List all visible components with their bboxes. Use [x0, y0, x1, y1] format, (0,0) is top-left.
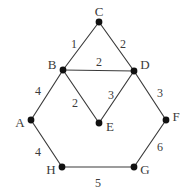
edges-group — [31, 22, 166, 167]
graph-edge — [99, 71, 134, 123]
graph-canvas: ABCDEFGH 1224233465 — [0, 0, 191, 195]
edge-weight-label: 6 — [157, 140, 163, 154]
graph-edge — [31, 120, 62, 167]
node-label: D — [140, 57, 149, 72]
edge-weight-label: 3 — [157, 86, 163, 100]
node-label: H — [46, 162, 55, 177]
node-label: E — [106, 119, 114, 134]
edge-weight-label: 5 — [95, 176, 101, 190]
weighted-graph-diagram: ABCDEFGH 1224233465 — [0, 0, 191, 195]
edge-weight-label: 4 — [35, 145, 41, 159]
edge-weight-label: 1 — [71, 37, 77, 51]
graph-node — [59, 164, 66, 171]
node-label: F — [172, 109, 179, 124]
edge-weight-label: 2 — [72, 96, 78, 110]
graph-node — [131, 68, 138, 75]
graph-node — [28, 117, 35, 124]
edge-weight-label: 2 — [120, 37, 126, 51]
edge-weight-label: 2 — [96, 55, 102, 69]
graph-edge — [99, 22, 134, 71]
graph-node — [163, 117, 170, 124]
node-label: C — [95, 4, 104, 19]
edge-weight-label: 3 — [108, 88, 114, 102]
graph-node — [96, 120, 103, 127]
graph-edge — [63, 70, 99, 123]
graph-node — [60, 67, 67, 74]
node-label: G — [140, 162, 149, 177]
graph-edge — [63, 70, 134, 71]
node-label: A — [15, 115, 25, 130]
node-label: B — [48, 57, 57, 72]
graph-node — [96, 19, 103, 26]
graph-edge — [63, 22, 99, 70]
edge-weight-label: 4 — [35, 84, 41, 98]
graph-node — [131, 164, 138, 171]
